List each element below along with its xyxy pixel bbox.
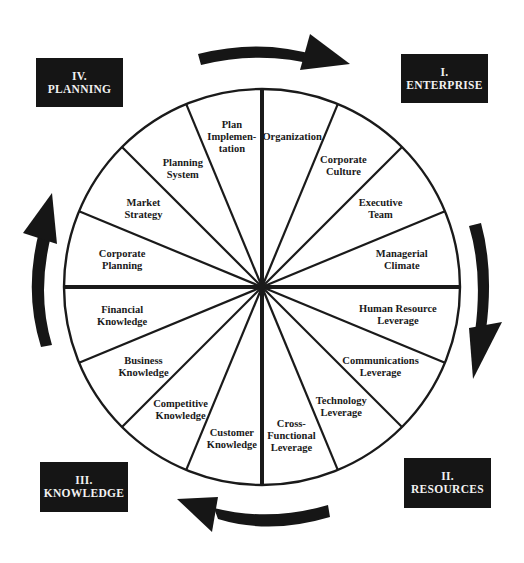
segment-label-line: Market	[127, 197, 161, 208]
wheel-spokes	[64, 89, 460, 485]
segment-label-line: Implemen-	[207, 131, 256, 142]
quadrant-box-planning: IV. PLANNING	[36, 58, 123, 107]
segment-label: Human ResourceLeverage	[359, 303, 437, 326]
quadrant-numeral: IV.	[72, 70, 87, 83]
arrow-head	[469, 322, 502, 379]
segment-label-line: Knowledge	[156, 410, 207, 421]
arrow-shaft	[214, 505, 330, 527]
arrow-shaft	[469, 223, 489, 332]
quadrant-label: RESOURCES	[411, 483, 484, 496]
quadrant-label: PLANNING	[48, 83, 112, 96]
segment-label: Organization	[262, 131, 322, 142]
segment-label: PlanImplemen-tation	[207, 119, 256, 154]
arrow-enterprise-to-resources	[469, 223, 502, 379]
segment-label: ExecutiveTeam	[359, 197, 403, 220]
segment-label-line: Organization	[262, 131, 322, 142]
segment-label-line: Managerial	[376, 248, 428, 259]
arrow-head	[177, 497, 218, 532]
quadrant-box-resources: II. RESOURCES	[404, 458, 491, 508]
segment-label: FinancialKnowledge	[97, 304, 148, 327]
arrow-knowledge-to-planning	[23, 193, 57, 347]
segment-label-line: Leverage	[377, 315, 419, 326]
segment-label-line: Strategy	[125, 209, 164, 220]
segment-label-line: Planning	[102, 260, 143, 271]
segment-label: CorporatePlanning	[99, 248, 146, 271]
segment-label-line: Knowledge	[207, 439, 258, 450]
segment-label: CustomerKnowledge	[207, 427, 258, 450]
segment-label: ManagerialClimate	[376, 248, 428, 271]
segment-label: CorporateCulture	[320, 154, 367, 177]
segment-label-line: Human Resource	[359, 303, 437, 314]
quadrant-box-knowledge: III. KNOWLEDGE	[40, 462, 128, 512]
segment-label-line: Executive	[359, 197, 403, 208]
wheel-hub	[258, 283, 266, 291]
segment-label-line: Financial	[101, 304, 143, 315]
segment-label: CommunicationsLeverage	[342, 355, 418, 378]
wheel-diagram: OrganizationCorporateCultureExecutiveTea…	[0, 0, 524, 563]
segment-label-line: Technology	[316, 395, 368, 406]
arrow-resources-to-knowledge	[177, 497, 330, 532]
quadrant-numeral: III.	[75, 474, 93, 487]
segment-label-line: Knowledge	[118, 367, 169, 378]
segment-label-line: Cross-	[277, 418, 306, 429]
segment-label: CompetitiveKnowledge	[153, 398, 208, 421]
arrow-planning-to-enterprise	[198, 34, 350, 70]
segment-label-line: Leverage	[320, 407, 362, 418]
segment-label: TechnologyLeverage	[316, 395, 368, 418]
segment-label-line: tation	[219, 143, 245, 154]
segment-label-line: Team	[368, 209, 393, 220]
segment-label-line: Culture	[326, 166, 361, 177]
segment-label: PlanningSystem	[163, 157, 204, 180]
quadrant-box-enterprise: I. ENTERPRISE	[401, 54, 488, 103]
quadrant-label: KNOWLEDGE	[44, 487, 125, 500]
segment-label-line: Planning	[163, 157, 204, 168]
segment-label-line: Functional	[267, 430, 316, 441]
segment-label: Cross-FunctionalLeverage	[267, 418, 316, 453]
segment-label-line: Business	[124, 355, 163, 366]
segment-label-line: Corporate	[320, 154, 367, 165]
quadrant-numeral: II.	[441, 470, 454, 483]
segment-label: BusinessKnowledge	[118, 355, 169, 378]
segment-label-line: Leverage	[271, 442, 313, 453]
segment-label-line: Communications	[342, 355, 418, 366]
arrow-head	[23, 193, 57, 244]
segment-label-line: Climate	[384, 260, 420, 271]
segment-label-line: Leverage	[360, 367, 402, 378]
segment-label-line: Customer	[210, 427, 255, 438]
segment-label-line: Competitive	[153, 398, 208, 409]
arrow-shaft	[198, 46, 320, 66]
arrow-shaft	[32, 228, 52, 347]
quadrant-label: ENTERPRISE	[406, 79, 483, 92]
arrow-head	[300, 34, 350, 70]
segment-label-line: System	[167, 169, 199, 180]
segment-label-line: Plan	[222, 119, 243, 130]
segment-label-line: Knowledge	[97, 316, 148, 327]
quadrant-numeral: I.	[441, 66, 449, 79]
segment-label: MarketStrategy	[125, 197, 164, 220]
segment-label-line: Corporate	[99, 248, 146, 259]
